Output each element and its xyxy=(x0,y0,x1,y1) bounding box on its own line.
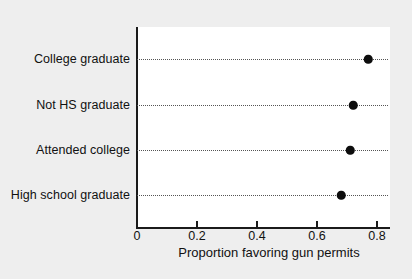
x-tick-label: 0.4 xyxy=(248,229,266,243)
y-axis-labels: College graduateNot HS graduateAttended … xyxy=(0,0,130,279)
x-tick-mark xyxy=(316,221,317,227)
x-tick-mark xyxy=(256,221,257,227)
plot-area xyxy=(137,27,390,227)
y-tick-label: Attended college xyxy=(36,143,130,157)
x-tick-label: 0.2 xyxy=(188,229,206,243)
data-point xyxy=(337,191,346,200)
x-tick-label: 0.8 xyxy=(368,229,386,243)
row-gridline xyxy=(137,59,388,60)
x-axis-title: Proportion favoring gun permits xyxy=(0,245,412,260)
y-tick-label: Not HS graduate xyxy=(36,98,130,112)
y-tick-label: College graduate xyxy=(34,52,130,66)
x-tick-mark xyxy=(136,221,137,227)
data-point xyxy=(349,101,358,110)
x-tick-label: 0.6 xyxy=(308,229,326,243)
x-tick-mark xyxy=(196,221,197,227)
y-tick-label: High school graduate xyxy=(11,188,130,202)
row-gridline xyxy=(137,195,388,196)
y-axis-line xyxy=(136,27,138,228)
data-point xyxy=(364,55,373,64)
data-point xyxy=(346,146,355,155)
x-tick-mark xyxy=(376,221,377,227)
x-tick-label: 0 xyxy=(133,229,140,243)
chart-figure: College graduateNot HS graduateAttended … xyxy=(0,0,412,279)
